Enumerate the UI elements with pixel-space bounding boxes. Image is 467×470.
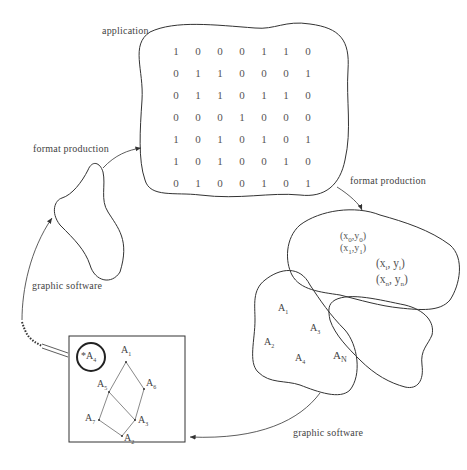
matrix-cell: 0 (170, 111, 182, 123)
matrix-cell: 1 (192, 177, 204, 189)
matrix-cell: 0 (236, 155, 248, 167)
matrix-cell: 1 (258, 133, 270, 145)
matrix-cell: 0 (236, 67, 248, 79)
matrix-cell: 0 (280, 177, 292, 189)
matrix-cell: 1 (192, 89, 204, 101)
matrix-cell: 1 (236, 111, 248, 123)
matrix-cell: 0 (170, 177, 182, 189)
matrix-cell: 0 (302, 89, 314, 101)
region-node: A3 (310, 322, 320, 335)
label-format-production-right: format production (350, 175, 426, 186)
region-node: A4 (295, 352, 305, 365)
graph-node-a1: A1 (121, 344, 131, 357)
matrix-cell: 0 (258, 155, 270, 167)
matrix-cell: 1 (280, 45, 292, 57)
matrix-cell: 0 (236, 45, 248, 57)
matrix-cell: 1 (302, 177, 314, 189)
matrix-cell: 0 (192, 45, 204, 57)
pen-tip (42, 344, 68, 357)
matrix-cell: 0 (258, 111, 270, 123)
matrix-cell: 0 (302, 111, 314, 123)
matrix-cell: 1 (170, 45, 182, 57)
coord-point: (x1,y1) (340, 242, 366, 256)
left-blob (54, 163, 123, 280)
regions-blob-left (253, 270, 358, 394)
matrix-cell: 1 (302, 67, 314, 79)
matrix-cell: 0 (258, 67, 270, 79)
matrix-cell: 0 (192, 133, 204, 145)
graph-node-a6: A6 (146, 377, 156, 390)
matrix-cell: 0 (280, 111, 292, 123)
matrix-cell: 0 (170, 89, 182, 101)
graph-node-a7: A7 (85, 412, 95, 425)
matrix-cell: 1 (280, 155, 292, 167)
coordinates-blob (287, 210, 459, 310)
matrix-cell: 0 (236, 133, 248, 145)
region-node: A2 (264, 336, 274, 349)
matrix-cell: 0 (236, 89, 248, 101)
diagram-canvas (0, 0, 467, 470)
matrix-cell: 1 (214, 89, 226, 101)
regions-blob-right (329, 297, 433, 388)
matrix-cell: 1 (214, 155, 226, 167)
matrix-cell: 0 (280, 67, 292, 79)
region-node: A1 (278, 302, 288, 315)
matrix-cell: 1 (214, 133, 226, 145)
matrix-cell: 0 (170, 67, 182, 79)
matrix-cell: 1 (214, 67, 226, 79)
matrix-cell: 0 (192, 155, 204, 167)
graph-node-a4: *A4 (81, 350, 96, 363)
matrix-cell: 0 (302, 155, 314, 167)
matrix-cell: 1 (170, 133, 182, 145)
matrix-cell: 1 (170, 155, 182, 167)
coord-point: (xn, yn) (376, 273, 408, 288)
matrix-cell: 0 (236, 177, 248, 189)
label-graphic-software-bottom: graphic software (293, 427, 363, 438)
graph-node-a3: A3 (138, 414, 148, 427)
matrix-cell: 1 (192, 67, 204, 79)
matrix-cell: 1 (258, 89, 270, 101)
graph-node-a2: A2 (124, 432, 134, 445)
matrix-cell: 0 (302, 45, 314, 57)
matrix-cell: 0 (214, 45, 226, 57)
coord-point: (xi, yi) (376, 257, 405, 272)
arrow-graphic-software-left (22, 218, 52, 320)
matrix-cell: 1 (258, 45, 270, 57)
matrix-cell: 0 (192, 111, 204, 123)
region-node: AN (333, 349, 347, 364)
label-format-production-left: format production (33, 143, 109, 154)
label-graphic-software-left: graphic software (32, 280, 102, 291)
matrix-cell: 1 (302, 133, 314, 145)
label-application: application (102, 25, 149, 36)
matrix-cell: 0 (280, 133, 292, 145)
matrix-cell: 0 (214, 177, 226, 189)
matrix-cell: 1 (258, 177, 270, 189)
pen-connector (22, 322, 42, 346)
graph-node-a5: A5 (97, 378, 107, 391)
matrix-cell: 0 (214, 111, 226, 123)
arrow-format-production-right (337, 187, 362, 210)
matrix-cell: 1 (280, 89, 292, 101)
